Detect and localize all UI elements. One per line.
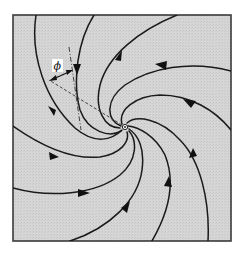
angle-label: ϕ xyxy=(54,60,62,73)
spiral-flow-diagram: ϕ xyxy=(0,0,247,253)
center-dot xyxy=(124,126,126,128)
